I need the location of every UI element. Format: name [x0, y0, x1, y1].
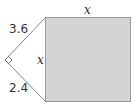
label-upper-leg: 3.6	[9, 22, 28, 36]
square	[46, 18, 131, 102]
diagram: 3.6 2.4 x x	[0, 0, 135, 106]
label-lower-leg: 2.4	[9, 81, 28, 95]
label-square-left: x	[37, 53, 44, 67]
label-square-top: x	[84, 3, 91, 17]
right-angle-marker	[5, 56, 12, 63]
